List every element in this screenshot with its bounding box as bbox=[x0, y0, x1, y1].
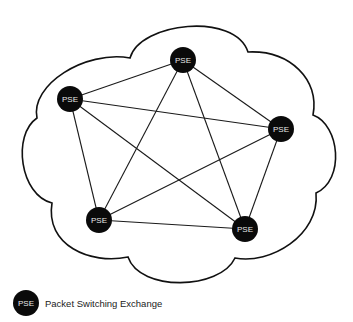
pse-node-label: PSE bbox=[91, 216, 107, 225]
pse-node-bottom-right: PSE bbox=[232, 216, 258, 242]
legend: PSE Packet Switching Exchange bbox=[13, 290, 162, 316]
pse-node-label: PSE bbox=[62, 95, 78, 104]
pse-node-top: PSE bbox=[170, 47, 196, 73]
pse-node-label: PSE bbox=[273, 125, 289, 134]
network-diagram: PSEPSEPSEPSEPSE PSE Packet Switching Exc… bbox=[0, 0, 353, 322]
pse-node-label: PSE bbox=[237, 225, 253, 234]
pse-node-bottom-left: PSE bbox=[86, 207, 112, 233]
pse-node-right: PSE bbox=[268, 116, 294, 142]
legend-description: Packet Switching Exchange bbox=[45, 298, 162, 309]
pse-node-label: PSE bbox=[175, 56, 191, 65]
legend-node-label: PSE bbox=[18, 299, 34, 308]
pse-node-left: PSE bbox=[57, 86, 83, 112]
